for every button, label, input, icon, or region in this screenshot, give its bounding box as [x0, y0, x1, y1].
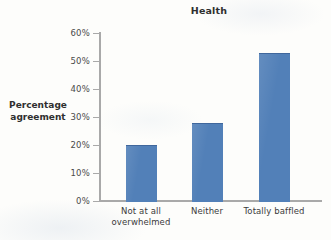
y-axis-tick: [93, 61, 99, 62]
bar: [259, 53, 290, 202]
y-axis-tick: [93, 173, 99, 174]
y-axis-tick-label: 50%: [50, 56, 90, 66]
y-axis-tick-label: 40%: [50, 84, 90, 94]
bar: [126, 145, 157, 202]
bar: [192, 123, 223, 202]
chart-title: Health: [96, 5, 322, 16]
y-axis-title-line-1: Percentage: [2, 99, 74, 111]
y-axis-tick-label: 60%: [50, 28, 90, 38]
y-axis-line: [99, 32, 101, 202]
y-axis-tick-label: 10%: [50, 168, 90, 178]
x-axis-label: Totally baffled: [229, 206, 319, 217]
y-axis-tick: [93, 117, 99, 118]
y-axis-tick: [93, 145, 99, 146]
bar-chart: Health Percentage agreement 60%50%40%30%…: [0, 0, 331, 240]
x-axis-label-line-2: overwhelmed: [96, 217, 186, 228]
y-axis-tick: [93, 201, 99, 202]
y-axis-tick-label: 20%: [50, 140, 90, 150]
y-axis-tick-label: 30%: [50, 112, 90, 122]
y-axis-tick-label: 0%: [50, 196, 90, 206]
x-axis-label-line-1: Totally baffled: [229, 206, 319, 217]
y-axis-tick: [93, 89, 99, 90]
y-axis-tick: [93, 33, 99, 34]
